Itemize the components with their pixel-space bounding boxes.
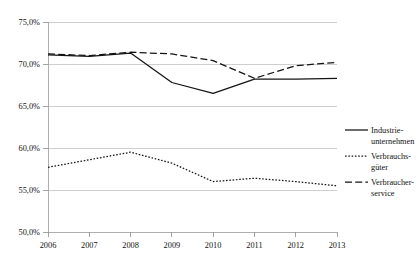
legend-label-verbraucherservice-line1: Verbraucher- [371,178,414,187]
gridlines [48,22,337,190]
y-axis-label-65: 65,0% [19,102,41,111]
data-series [48,52,337,186]
y-axis-label-55: 55,0% [19,186,41,195]
x-axis-label-2008: 2008 [122,241,139,250]
legend-label-industrieunternehmen-line2: unternehmen [371,137,415,146]
legend-label-verbraucherservice-line2: service [371,189,395,198]
y-axis-label-60: 60,0% [19,144,41,153]
axes [48,22,337,232]
series-line-verbrauchsgueter [48,152,337,186]
x-axis-label-2012: 2012 [287,241,304,250]
x-axis-label-2013: 2013 [329,241,346,250]
chart-canvas: 75,0% 70,0% 65,0% 60,0% 55,0% 50,0% 2006… [0,0,419,256]
legend-label-verbrauchsgueter-line1: Verbrauchs- [371,152,411,161]
y-axis-labels: 75,0% 70,0% 65,0% 60,0% 55,0% 50,0% [19,18,41,237]
line-chart: 75,0% 70,0% 65,0% 60,0% 55,0% 50,0% 2006… [0,0,419,256]
y-tick-marks [43,22,48,232]
x-tick-marks [48,232,337,237]
y-axis-label-50: 50,0% [19,228,41,237]
x-axis-label-2009: 2009 [164,241,181,250]
legend-label-industrieunternehmen-line1: Industrie- [371,126,403,135]
x-axis-label-2006: 2006 [40,241,57,250]
x-axis-label-2007: 2007 [81,241,98,250]
y-axis-label-70: 70,0% [19,60,41,69]
legend-label-verbrauchsgueter-line2: güter [371,163,388,172]
series-line-industrieunternehmen [48,53,337,93]
x-axis-labels: 2006 2007 2008 2009 2010 2011 2012 2013 [40,241,346,250]
x-axis-label-2011: 2011 [246,241,262,250]
y-axis-label-75: 75,0% [19,18,41,27]
x-axis-label-2010: 2010 [205,241,222,250]
legend: Industrie- unternehmen Verbrauchs- güter… [345,126,415,198]
